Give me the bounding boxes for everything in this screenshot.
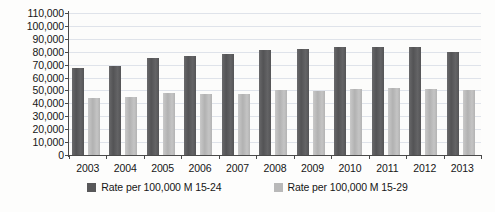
bar-group: [181, 13, 218, 155]
x-axis-tick: [331, 155, 332, 159]
plot-area: [69, 13, 481, 155]
y-axis-line: [68, 11, 69, 157]
x-axis-label-2003: 2003: [68, 162, 108, 174]
legend-item-series-b: Rate per 100,000 M 15-29: [274, 182, 408, 193]
bar-group: [219, 13, 256, 155]
chart-legend: Rate per 100,000 M 15-24 Rate per 100,00…: [0, 179, 495, 195]
legend-swatch-icon-series-a: [87, 183, 96, 192]
bar-2004-series-b: [125, 97, 137, 155]
x-axis-tick: [106, 155, 107, 159]
y-axis-tick-label: 10,000: [0, 137, 64, 147]
x-axis-label-2005: 2005: [143, 162, 183, 174]
legend-item-series-a: Rate per 100,000 M 15-24: [87, 182, 221, 193]
bar-2011-series-a: [372, 47, 384, 155]
bar-2006-series-b: [200, 94, 212, 155]
caption-remnant: [8, 203, 308, 210]
bar-2005-series-a: [147, 58, 159, 155]
bar-group: [69, 13, 106, 155]
bar-group: [331, 13, 368, 155]
legend-swatch-icon-series-b: [274, 183, 283, 192]
bar-2008-series-b: [275, 90, 287, 155]
y-axis-tick-label: 100,000: [0, 21, 64, 31]
legend-label-series-a: Rate per 100,000 M 15-24: [101, 182, 221, 193]
x-axis-label-2008: 2008: [255, 162, 295, 174]
bar-2007-series-a: [222, 54, 234, 155]
y-axis-tick-label: 0: [0, 150, 64, 160]
y-axis-tick-label: 50,000: [0, 85, 64, 95]
bar-group: [369, 13, 406, 155]
bar-2005-series-b: [163, 93, 175, 155]
x-axis-label-2009: 2009: [292, 162, 332, 174]
x-axis-tick: [406, 155, 407, 159]
x-axis-label-2010: 2010: [330, 162, 370, 174]
x-axis-tick: [181, 155, 182, 159]
bar-2007-series-b: [238, 94, 250, 155]
y-axis-tick-label: 30,000: [0, 111, 64, 121]
legend-label-series-b: Rate per 100,000 M 15-29: [288, 182, 408, 193]
bar-2008-series-a: [259, 50, 271, 155]
x-axis-label-2012: 2012: [405, 162, 445, 174]
y-axis-tick-label: 60,000: [0, 73, 64, 83]
x-axis-tick: [294, 155, 295, 159]
bar-groups: [69, 13, 481, 155]
bar-chart-figure: 110,000100,00090,00080,00070,00060,00050…: [0, 0, 495, 212]
x-axis-tick: [219, 155, 220, 159]
bar-2003-series-a: [72, 68, 84, 155]
x-axis-label-2013: 2013: [442, 162, 482, 174]
bar-2011-series-b: [388, 88, 400, 155]
x-axis-label-2007: 2007: [218, 162, 258, 174]
y-axis-tick-label: 40,000: [0, 98, 64, 108]
y-axis-tick-label: 80,000: [0, 47, 64, 57]
y-axis-tick-label: 110,000: [0, 8, 64, 18]
x-axis-tick: [256, 155, 257, 159]
x-axis-tick: [69, 155, 70, 159]
x-axis-tick: [444, 155, 445, 159]
bar-2006-series-a: [184, 56, 196, 155]
y-axis-tick-label: 20,000: [0, 124, 64, 134]
y-axis-tick-label: 70,000: [0, 60, 64, 70]
bar-group: [106, 13, 143, 155]
bar-2013-series-b: [463, 90, 475, 155]
bar-group: [444, 13, 481, 155]
bar-2012-series-a: [409, 47, 421, 155]
bar-2010-series-a: [334, 47, 346, 155]
bar-2003-series-b: [88, 98, 100, 155]
bar-2004-series-a: [109, 66, 121, 155]
bar-2009-series-a: [297, 49, 309, 156]
x-axis-ticks: [69, 155, 481, 160]
x-axis-tick: [144, 155, 145, 159]
bar-group: [256, 13, 293, 155]
bar-2012-series-b: [425, 89, 437, 155]
x-axis-labels: 2003200420052006200720082009201020112012…: [69, 162, 481, 176]
x-axis-tick: [369, 155, 370, 159]
y-axis-tick-label: 90,000: [0, 34, 64, 44]
bar-group: [144, 13, 181, 155]
bar-group: [294, 13, 331, 155]
bar-2013-series-a: [447, 52, 459, 155]
bar-2010-series-b: [350, 89, 362, 155]
x-axis-label-2006: 2006: [180, 162, 220, 174]
x-axis-label-2011: 2011: [367, 162, 407, 174]
x-axis-label-2004: 2004: [105, 162, 145, 174]
bar-group: [406, 13, 443, 155]
x-axis-tick: [481, 155, 482, 159]
bar-2009-series-b: [313, 91, 325, 155]
